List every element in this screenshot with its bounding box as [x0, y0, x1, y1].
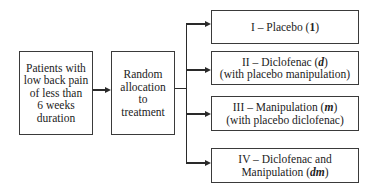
patients-line-1: Patients with: [26, 62, 86, 74]
arm-1-label: I – Placebo (: [251, 21, 309, 33]
branch-trunk: [186, 23, 188, 163]
patients-line-4: 6 weeks: [37, 99, 74, 111]
arm-2-text: II – Diclofenac (d) (with placebo manipu…: [220, 56, 350, 81]
patients-line-3: of less than: [30, 87, 82, 99]
patients-text: Patients with low back pain of less than…: [24, 62, 89, 125]
patients-line-5: duration: [37, 112, 75, 124]
arm-4-suffix: ): [325, 166, 329, 178]
arm-2-diclofenac-box: II – Diclofenac (d) (with placebo manipu…: [211, 51, 359, 85]
arm-1-suffix: ): [315, 21, 319, 33]
arm-4-symbol: dm: [310, 166, 325, 178]
arm-1-text: I – Placebo (1): [251, 21, 319, 34]
allocation-line-3: to: [139, 93, 148, 105]
arm-3-manipulation-box: III – Manipulation (m) (with placebo dic…: [211, 96, 359, 131]
branch-arm-2: [186, 69, 205, 71]
arm-2-suffix: ): [324, 56, 328, 68]
arm-4-text: IV – Diclofenac and Manipulation (dm): [238, 153, 331, 178]
arm-4-combined-box: IV – Diclofenac and Manipulation (dm): [211, 148, 359, 183]
arm-3-suffix: ): [333, 101, 337, 113]
branch-arm-3: [186, 113, 205, 115]
allocation-box: Random allocation to treatment: [111, 51, 175, 135]
connector-allocation-to-trunk: [175, 88, 186, 89]
arm-4-label-2: Manipulation (: [241, 166, 310, 178]
arm-1-placebo-box: I – Placebo (1): [211, 10, 359, 44]
arm-3-text: III – Manipulation (m) (with placebo dic…: [226, 101, 344, 126]
arm-4-label: IV – Diclofenac and: [238, 153, 331, 165]
branch-arm-1: [186, 23, 205, 25]
allocation-line-4: treatment: [121, 106, 164, 118]
arm-3-subtitle: (with placebo diclofenac): [226, 114, 344, 126]
allocation-text: Random allocation to treatment: [120, 68, 165, 118]
arm-2-subtitle: (with placebo manipulation): [220, 68, 350, 80]
allocation-line-1: Random: [124, 68, 163, 80]
arm-3-label: III – Manipulation (: [233, 101, 325, 113]
patients-box: Patients with low back pain of less than…: [19, 51, 93, 135]
allocation-line-2: allocation: [120, 81, 165, 93]
patients-line-2: low back pain: [24, 74, 89, 86]
connector-patients-to-allocation: [93, 89, 105, 91]
branch-arm-4: [186, 162, 205, 164]
arm-2-label: II – Diclofenac (: [242, 56, 318, 68]
